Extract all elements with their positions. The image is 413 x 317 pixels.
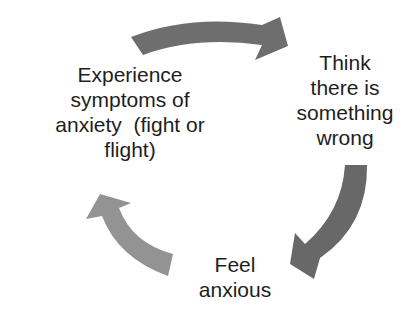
node-line: anxiety (fight or	[30, 112, 230, 137]
node-line: something	[280, 100, 410, 125]
arrow-think-to-feel-icon	[290, 165, 367, 279]
arrow-feel-to-experience-icon	[86, 194, 173, 276]
node-line: Feel	[180, 252, 290, 277]
node-line: flight)	[30, 137, 230, 162]
node-experience-symptoms: Experience symptoms of anxiety (fight or…	[30, 62, 230, 162]
node-feel-anxious: Feel anxious	[180, 252, 290, 302]
node-line: wrong	[280, 125, 410, 150]
node-line: symptoms of	[30, 87, 230, 112]
node-line: Think	[280, 50, 410, 75]
node-line: Experience	[30, 62, 230, 87]
cycle-diagram: Experience symptoms of anxiety (fight or…	[0, 0, 413, 317]
node-line: there is	[280, 75, 410, 100]
node-think-something-wrong: Think there is something wrong	[280, 50, 410, 150]
arrow-experience-to-think-icon	[131, 17, 288, 60]
node-line: anxious	[180, 277, 290, 302]
